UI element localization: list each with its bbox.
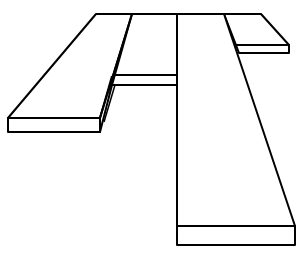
plank-diagram <box>0 0 299 256</box>
left-plank <box>8 14 132 132</box>
plank-drawing <box>0 0 299 256</box>
middle-crossbar <box>112 75 177 85</box>
